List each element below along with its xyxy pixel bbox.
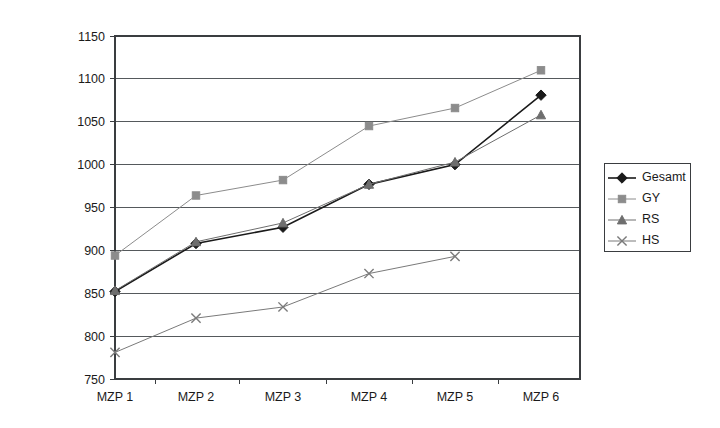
y-axis-tick-label: 1100: [78, 72, 105, 86]
y-axis-tick-label: 950: [84, 201, 105, 215]
series-line: [115, 95, 541, 291]
legend-label: HS: [642, 233, 659, 247]
square-marker: [192, 192, 199, 199]
triangle-marker: [278, 218, 287, 227]
x-axis-tick-label: MZP 6: [523, 390, 560, 404]
square-marker: [451, 104, 458, 111]
y-axis-tick-label: 850: [84, 287, 105, 301]
chart-canvas: 1150110010501000950900850800750 MZP 1MZP…: [0, 0, 720, 428]
square-marker: [111, 252, 118, 259]
square-marker: [618, 195, 625, 202]
data-series: [110, 67, 546, 357]
triangle-marker: [536, 110, 545, 119]
series-hs: [110, 252, 459, 357]
series-rs: [110, 110, 545, 294]
legend-label: GY: [642, 191, 661, 205]
square-marker: [279, 176, 286, 183]
series-line: [115, 115, 541, 291]
x-axis-tick-label: MZP 5: [437, 390, 474, 404]
y-axis-tick-labels: 1150110010501000950900850800750: [77, 30, 105, 387]
x-axis-tick-label: MZP 2: [178, 390, 215, 404]
y-axis-tick-label: 1000: [77, 158, 105, 172]
series-gesamt: [110, 90, 546, 297]
series-gy: [111, 67, 544, 260]
x-axis-tick-label: MZP 3: [265, 390, 302, 404]
legend-label: RS: [642, 212, 659, 226]
x-axis-tick-label: MZP 1: [97, 390, 134, 404]
series-line: [115, 70, 541, 255]
y-axis-tick-label: 750: [84, 373, 105, 387]
cross-marker: [450, 252, 459, 261]
y-axis-tick-label: 900: [84, 244, 105, 258]
chart-legend: GesamtGYRSHS: [604, 163, 690, 251]
y-axis-tick-label: 800: [84, 330, 105, 344]
y-axis-tick-label: 1150: [78, 30, 105, 44]
cross-marker: [364, 269, 373, 278]
x-axis-tick-labels: MZP 1MZP 2MZP 3MZP 4MZP 5MZP 6: [97, 390, 560, 404]
axis-tickmarks: [110, 36, 498, 384]
y-axis-tick-label: 1050: [77, 115, 105, 129]
square-marker: [537, 67, 544, 74]
x-axis-tick-label: MZP 4: [351, 390, 388, 404]
gridlines: [115, 79, 580, 379]
legend-label: Gesamt: [642, 170, 686, 184]
line-chart-figure: 1150110010501000950900850800750 MZP 1MZP…: [0, 0, 720, 428]
square-marker: [365, 122, 372, 129]
